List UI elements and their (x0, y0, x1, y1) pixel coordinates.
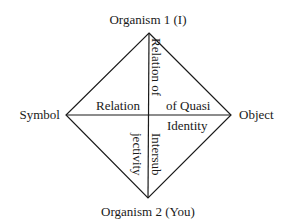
vertical-axis (148, 33, 149, 198)
relation-of-label: Relation of (149, 38, 164, 97)
diamond-diagram: Organism 1 (I) Symbol Object Organism 2 … (0, 0, 290, 224)
identity-label: Identity (167, 118, 208, 133)
intersub-label: Intersub (149, 133, 164, 176)
vertex-bottom-label: Organism 2 (You) (101, 204, 195, 219)
of-quasi-label: of Quasi (166, 98, 211, 113)
vertex-left-label: Symbol (20, 107, 61, 122)
relation-label: Relation (96, 98, 141, 113)
vertex-top-label: Organism 1 (I) (109, 12, 186, 27)
jectivity-label: jectivity (130, 132, 145, 176)
vertex-right-label: Object (239, 107, 274, 122)
